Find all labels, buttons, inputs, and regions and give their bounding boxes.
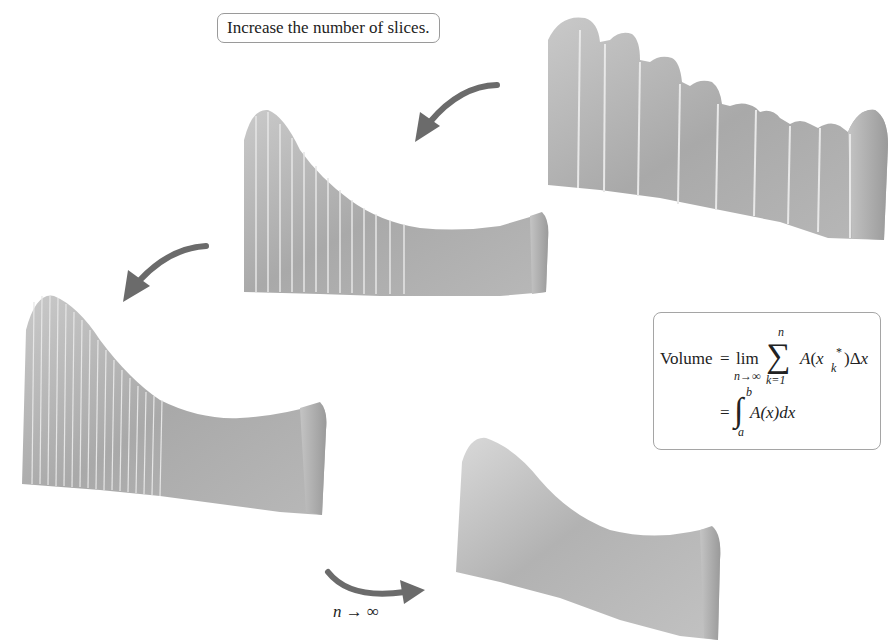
formula-sigma-bottom: k=1 [766,373,785,388]
solid-smooth [456,438,720,640]
solid-many-slices [22,296,326,515]
summand-dx: x [861,349,869,368]
integral-upper: b [746,385,752,400]
integral-lower: a [738,425,744,440]
solid-few-slices [548,17,888,240]
formula-lim: lim [736,349,759,369]
limit-infinity: ∞ [367,602,379,621]
arrow-1-icon [415,85,497,142]
summand-close: )Δ [844,349,861,368]
callout-increase-slices: Increase the number of slices. [217,13,440,43]
formula-lhs: Volume [660,349,713,369]
arrow-3-icon [328,572,425,604]
sigma-icon: ∑ [766,339,790,373]
arrow-2-icon [123,246,206,302]
formula-eq1: = [720,349,730,369]
integral-icon: ∫ [734,393,743,427]
formula-delta: )Δx [844,349,868,369]
formula-summand: A(x [800,349,824,369]
formula-integrand: A(x)dx [750,403,795,423]
solid-more-slices [244,110,548,296]
limit-label: n → ∞ [333,602,379,622]
formula-eq2: = [720,403,730,423]
summand-A: A [800,349,810,368]
formula-subscript-k: k [831,361,836,376]
limit-var: n [333,602,342,621]
summand-x: x [816,349,824,368]
formula-lim-sub: n→∞ [734,369,761,384]
limit-arrow-icon: → [346,602,363,621]
formula-star: * [836,345,842,360]
volume-formula-box: Volume = lim n→∞ n ∑ k=1 A(x * k )Δx = b… [653,312,881,450]
